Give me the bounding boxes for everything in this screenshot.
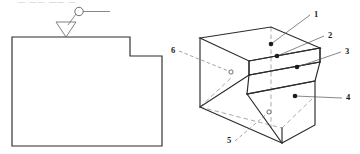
leader-lines-group: [179, 15, 342, 141]
surface-number-label-4: 4: [346, 92, 351, 102]
surface-marker-6: [229, 70, 233, 74]
front-right-face: [247, 81, 315, 143]
drawing-sheet: — —— —— —: [0, 0, 360, 154]
step-riser-face: [249, 48, 320, 75]
leader-line-6: [179, 51, 231, 72]
header-text-fragment: — —— —— —: [18, 0, 77, 5]
surface-number-label-1: 1: [314, 9, 318, 19]
surface-number-label-3: 3: [345, 46, 349, 56]
left-side-face: [200, 38, 249, 107]
surface-number-label-2: 2: [328, 30, 332, 40]
top-face-lower-step: [247, 62, 320, 94]
surface-number-label-6: 6: [171, 45, 175, 55]
number-labels-group: 123456: [171, 9, 351, 145]
surface-marker-1: [269, 42, 274, 47]
top-face-upper-step: [200, 27, 320, 61]
surface-marker-4: [293, 94, 298, 99]
leader-line-5: [235, 112, 269, 141]
leader-line-2: [277, 36, 324, 56]
leader-line-4: [295, 96, 342, 98]
surface-marker-3: [295, 65, 300, 70]
surface-finish-symbol: [56, 7, 110, 37]
hidden-edges: [200, 27, 315, 128]
isometric-stepped-block: [200, 27, 320, 143]
front-view-outline: [12, 37, 162, 146]
surface-number-label-5: 5: [227, 135, 231, 145]
surface-marker-5: [267, 110, 271, 114]
surface-marker-2: [275, 54, 280, 59]
